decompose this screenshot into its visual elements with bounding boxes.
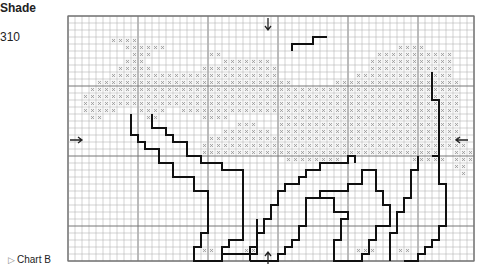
stitch-cell: [399, 88, 403, 92]
stitch-cell: [98, 109, 102, 113]
stitch-cell: [224, 60, 228, 64]
stitch-cell: [140, 67, 144, 71]
stitch-cell: [434, 158, 438, 162]
stitch-cell: [434, 53, 438, 57]
stitch-cell: [245, 249, 249, 253]
stitch-cell: [105, 109, 109, 113]
stitch-cell: [455, 102, 459, 106]
stitch-cell: [399, 137, 403, 141]
stitch-cell: [308, 158, 312, 162]
stitch-cell: [315, 137, 319, 141]
stitch-cell: [322, 88, 326, 92]
stitch-cell: [434, 95, 438, 99]
stitch-cell: [420, 109, 424, 113]
stitch-cell: [266, 67, 270, 71]
stitch-cell: [238, 88, 242, 92]
stitch-cell: [315, 144, 319, 148]
stitch-cell: [371, 95, 375, 99]
stitch-cell: [294, 123, 298, 127]
stitch-cell: [448, 74, 452, 78]
stitch-cell: [252, 102, 256, 106]
stitch-cell: [98, 102, 102, 106]
stitch-cell: [315, 95, 319, 99]
stitch-cell: [161, 109, 165, 113]
stitch-cell: [371, 123, 375, 127]
stitch-cell: [245, 109, 249, 113]
stitch-cell: [161, 74, 165, 78]
stitch-cell: [217, 102, 221, 106]
stitch-cell: [266, 81, 270, 85]
stitch-cell: [266, 151, 270, 155]
stitch-cell: [441, 102, 445, 106]
stitch-cell: [301, 137, 305, 141]
stitch-cell: [252, 130, 256, 134]
stitch-cell: [357, 95, 361, 99]
stitch-cell: [203, 95, 207, 99]
stitch-cell: [448, 81, 452, 85]
stitch-cell: [140, 109, 144, 113]
stitch-cell: [252, 123, 256, 127]
stitch-cell: [245, 67, 249, 71]
stitch-cell: [203, 102, 207, 106]
stitch-cell: [399, 74, 403, 78]
stitch-cell: [168, 88, 172, 92]
stitch-cell: [357, 151, 361, 155]
stitch-cell: [455, 116, 459, 120]
stitch-cell: [182, 95, 186, 99]
stitch-cell: [434, 130, 438, 134]
stitch-cell: [294, 151, 298, 155]
stitch-cell: [252, 81, 256, 85]
stitch-cell: [413, 151, 417, 155]
stitch-cell: [98, 81, 102, 85]
stitch-cell: [378, 53, 382, 57]
stitch-cell: [406, 74, 410, 78]
stitch-cell: [259, 102, 263, 106]
stitch-cell: [287, 137, 291, 141]
stitch-cell: [231, 102, 235, 106]
stitch-cell: [105, 81, 109, 85]
stitch-cell: [371, 109, 375, 113]
stitch-cell: [343, 144, 347, 148]
stitch-cell: [98, 88, 102, 92]
stitch-cell: [427, 102, 431, 106]
stitch-cell: [217, 144, 221, 148]
stitch-cell: [378, 102, 382, 106]
stitch-cell: [441, 88, 445, 92]
stitch-cell: [413, 60, 417, 64]
stitch-cell: [126, 46, 130, 50]
stitch-cell: [301, 102, 305, 106]
stitch-cell: [231, 130, 235, 134]
stitch-cell: [266, 144, 270, 148]
stitch-cell: [140, 60, 144, 64]
stitch-cell: [105, 95, 109, 99]
stitch-cell: [406, 109, 410, 113]
stitch-cell: [196, 109, 200, 113]
stitch-cell: [413, 88, 417, 92]
stitch-cell: [252, 249, 256, 253]
stitch-cell: [84, 95, 88, 99]
stitch-cell: [294, 109, 298, 113]
stitch-cell: [378, 88, 382, 92]
stitch-cell: [280, 144, 284, 148]
stitch-cell: [154, 116, 158, 120]
stitch-cell: [273, 144, 277, 148]
stitch-cell: [126, 95, 130, 99]
stitch-cell: [462, 165, 466, 169]
stitch-cell: [392, 81, 396, 85]
stitch-cell: [441, 81, 445, 85]
stitch-cell: [287, 151, 291, 155]
stitch-cell: [392, 116, 396, 120]
stitch-cell: [441, 67, 445, 71]
stitch-cell: [287, 95, 291, 99]
stitch-cell: [357, 102, 361, 106]
stitch-cell: [224, 81, 228, 85]
stitch-cell: [448, 130, 452, 134]
stitch-cell: [441, 144, 445, 148]
stitch-cell: [252, 67, 256, 71]
stitch-cell: [448, 67, 452, 71]
stitch-cell: [392, 88, 396, 92]
stitch-cell: [238, 74, 242, 78]
stitch-cell: [126, 102, 130, 106]
stitch-cell: [245, 60, 249, 64]
stitch-cell: [175, 102, 179, 106]
